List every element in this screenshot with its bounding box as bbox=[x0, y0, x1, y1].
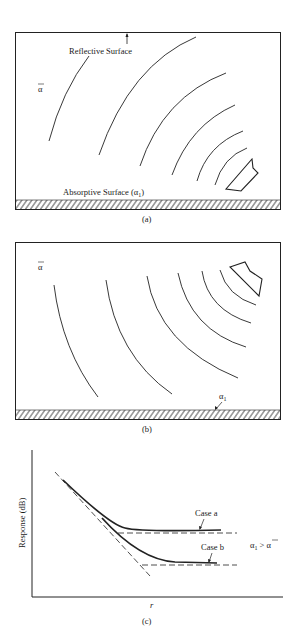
caption-c: (c) bbox=[142, 616, 152, 626]
reflective-surface-label: Reflective Surface bbox=[69, 46, 132, 56]
case-b-curve bbox=[102, 518, 217, 563]
panel-c: Response (dB) r Case a Case b α1 > α (c) bbox=[17, 450, 283, 626]
absorptive-floor-hatch bbox=[16, 200, 280, 209]
wavefronts-a bbox=[49, 37, 247, 185]
case-a-curve bbox=[63, 480, 221, 531]
y-axis-label: Response (dB) bbox=[17, 498, 27, 548]
figure-canvas: Reflective Surface α Absorptive Surface … bbox=[0, 0, 299, 638]
loudspeaker-icon bbox=[230, 262, 262, 296]
alpha-bar-label: α bbox=[38, 84, 43, 94]
caption-a: (a) bbox=[142, 214, 152, 224]
x-axis-label: r bbox=[150, 600, 154, 610]
absorptive-surface-label: Absorptive Surface (α1) bbox=[63, 187, 144, 198]
absorptive-floor-hatch bbox=[16, 410, 280, 419]
loudspeaker-icon bbox=[226, 159, 258, 191]
case-a-label: Case a bbox=[195, 508, 218, 518]
room-outline bbox=[16, 243, 281, 420]
case-b-label: Case b bbox=[201, 542, 224, 552]
alpha-bar-label: α bbox=[38, 262, 43, 272]
condition-label: α1 > α bbox=[250, 540, 272, 551]
panel-a: Reflective Surface α Absorptive Surface … bbox=[16, 33, 281, 225]
wavefronts-b bbox=[54, 270, 256, 397]
caption-b: (b) bbox=[142, 424, 152, 434]
panel-b: α α1 (b) bbox=[16, 243, 281, 435]
alpha1-label: α1 bbox=[219, 391, 226, 402]
